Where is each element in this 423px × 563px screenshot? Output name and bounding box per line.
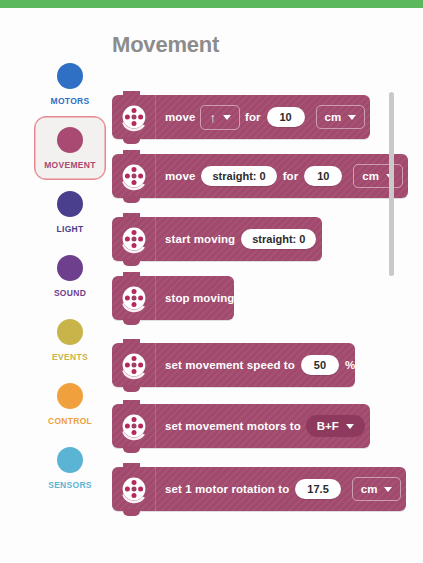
block-input-field[interactable]: straight: 0: [241, 229, 316, 250]
block-label: set movement motors to: [165, 420, 301, 432]
hub-icon: [119, 350, 149, 380]
page-title: Movement: [112, 32, 219, 58]
block-input-field[interactable]: 17.5: [295, 479, 340, 500]
top-accent-bar: [0, 0, 423, 8]
sidebar-item-sensors[interactable]: SENSORS: [34, 436, 106, 500]
dropdown-value: B+F: [317, 420, 339, 432]
sidebar-item-motors[interactable]: MOTORS: [34, 52, 106, 116]
block-start-moving[interactable]: start movingstraight: 0: [112, 217, 322, 261]
sidebar-item-label: SOUND: [54, 288, 86, 298]
chevron-down-icon: [348, 115, 356, 120]
dropdown-value: cm: [362, 170, 379, 182]
block-move-direction-for[interactable]: move↑for10cm: [112, 95, 370, 139]
block-label: set 1 motor rotation to: [165, 483, 289, 495]
sidebar-item-sound[interactable]: SOUND: [34, 244, 106, 308]
block-label: for: [245, 111, 261, 123]
sidebar-item-label: CONTROL: [48, 416, 92, 426]
block-divider: [155, 404, 156, 448]
block-dropdown[interactable]: B+F: [306, 415, 365, 437]
chevron-down-icon: [223, 115, 231, 120]
category-sidebar: MOTORSMOVEMENTLIGHTSOUNDEVENTSCONTROLSEN…: [34, 52, 106, 552]
sidebar-item-label: MOTORS: [51, 96, 90, 106]
hub-icon: [119, 161, 149, 191]
block-divider: [155, 467, 156, 511]
block-label: for: [283, 170, 299, 182]
sidebar-item-label: EVENTS: [52, 352, 88, 362]
block-list: move↑for10cmmovestraight: 0for10cmstart …: [112, 88, 412, 558]
hub-icon: [119, 102, 149, 132]
dropdown-value: cm: [325, 111, 342, 123]
block-divider: [155, 217, 156, 261]
block-label: start moving: [165, 233, 235, 245]
block-label: move: [165, 170, 195, 182]
hub-icon: [119, 283, 149, 313]
block-label: %: [345, 359, 355, 371]
block-input-field[interactable]: 10: [304, 166, 342, 187]
block-divider: [155, 343, 156, 387]
block-input-field[interactable]: straight: 0: [201, 166, 276, 187]
sidebar-item-movement[interactable]: MOVEMENT: [34, 116, 106, 180]
hub-icon: [119, 474, 149, 504]
block-divider: [155, 154, 156, 198]
category-color-dot: [57, 127, 83, 153]
block-dropdown[interactable]: ↑: [200, 105, 240, 130]
block-divider: [155, 276, 156, 320]
sidebar-item-label: SENSORS: [48, 480, 92, 490]
block-label: move: [165, 111, 195, 123]
block-label: set movement speed to: [165, 359, 295, 371]
arrow-up-icon: ↑: [209, 111, 216, 124]
sidebar-item-label: LIGHT: [57, 224, 84, 234]
block-set-movement-speed[interactable]: set movement speed to50%: [112, 343, 355, 387]
block-stop-moving[interactable]: stop moving: [112, 276, 234, 320]
block-dropdown[interactable]: cm: [316, 105, 366, 129]
category-color-dot: [57, 447, 83, 473]
category-color-dot: [57, 383, 83, 409]
sidebar-item-events[interactable]: EVENTS: [34, 308, 106, 372]
hub-icon: [119, 224, 149, 254]
category-color-dot: [57, 255, 83, 281]
block-set-motor-rotation[interactable]: set 1 motor rotation to17.5cm: [112, 467, 406, 511]
dropdown-value: cm: [361, 483, 378, 495]
category-color-dot: [57, 191, 83, 217]
chevron-down-icon: [384, 487, 392, 492]
category-color-dot: [57, 319, 83, 345]
chevron-down-icon: [346, 424, 354, 429]
block-divider: [155, 95, 156, 139]
block-input-field[interactable]: 10: [267, 107, 305, 128]
sidebar-item-label: MOVEMENT: [44, 160, 96, 170]
block-palette-panel: Movement MOTORSMOVEMENTLIGHTSOUNDEVENTSC…: [0, 8, 423, 563]
block-dropdown[interactable]: cm: [352, 477, 402, 501]
block-label: stop moving: [165, 292, 234, 304]
hub-icon: [119, 411, 149, 441]
sidebar-item-control[interactable]: CONTROL: [34, 372, 106, 436]
block-input-field[interactable]: 50: [301, 355, 339, 376]
block-dropdown[interactable]: cm: [353, 164, 403, 188]
sidebar-item-light[interactable]: LIGHT: [34, 180, 106, 244]
vertical-scrollbar[interactable]: [389, 92, 394, 276]
category-color-dot: [57, 63, 83, 89]
block-set-movement-motors[interactable]: set movement motors toB+F: [112, 404, 370, 448]
block-move-steering-for[interactable]: movestraight: 0for10cm: [112, 154, 408, 198]
